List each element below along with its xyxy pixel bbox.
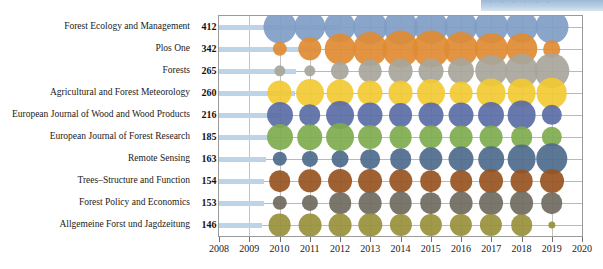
bubble-marker bbox=[359, 192, 382, 215]
bubble-marker bbox=[302, 195, 318, 211]
bubble-marker bbox=[358, 125, 382, 149]
y-axis-label: Forest Policy and Economics bbox=[79, 198, 190, 208]
x-axis-tick bbox=[340, 237, 341, 242]
watermark-banner: · · · · · · bbox=[481, 0, 603, 11]
bubble-marker bbox=[388, 81, 413, 106]
x-axis-tick bbox=[280, 237, 281, 242]
y-axis-label: Trees–Structure and Function bbox=[77, 176, 190, 186]
x-axis-label: 2013 bbox=[360, 244, 380, 254]
x-axis-tick bbox=[552, 237, 553, 242]
x-axis-label: 2008 bbox=[209, 244, 229, 254]
x-axis: 2008200920102011201220132014201520162017… bbox=[218, 237, 583, 269]
y-axis-label: Forest Ecology and Management bbox=[64, 22, 190, 32]
bubble-marker bbox=[420, 170, 442, 192]
x-axis-label: 2019 bbox=[542, 244, 562, 254]
chart-root: · · · · · · Forest Ecology and Managemen… bbox=[0, 0, 603, 269]
bubble-marker bbox=[511, 214, 533, 236]
x-axis-label: 2012 bbox=[330, 244, 350, 254]
x-axis-label: 2010 bbox=[270, 244, 290, 254]
watermark-text: · · · · · · bbox=[489, 0, 553, 7]
bubble-marker bbox=[332, 151, 349, 168]
bubble-marker bbox=[359, 213, 382, 236]
y-axis-label: Remote Sensing bbox=[128, 154, 190, 164]
bubble-marker bbox=[272, 152, 286, 166]
bubble-marker bbox=[507, 101, 536, 130]
bubble-marker bbox=[419, 147, 442, 170]
bubble-marker bbox=[449, 103, 474, 128]
x-axis-label: 2014 bbox=[391, 244, 411, 254]
bubble-marker bbox=[478, 102, 504, 128]
bubble-marker bbox=[450, 170, 472, 192]
bubble-layer bbox=[219, 16, 582, 236]
bubble-marker bbox=[269, 170, 291, 192]
x-axis-tick bbox=[310, 237, 311, 242]
bubble-marker bbox=[326, 123, 354, 151]
x-axis-tick bbox=[370, 237, 371, 242]
x-axis-tick bbox=[219, 237, 220, 242]
x-axis-label: 2011 bbox=[300, 244, 320, 254]
bubble-marker bbox=[263, 16, 296, 44]
bubble-marker bbox=[358, 103, 383, 128]
bubble-marker bbox=[297, 124, 323, 150]
bubble-marker bbox=[420, 214, 442, 236]
bubble-marker bbox=[450, 126, 473, 149]
bubble-marker bbox=[299, 104, 321, 126]
bubble-marker bbox=[510, 191, 534, 215]
bubble-marker bbox=[418, 103, 443, 128]
x-axis-label: 2015 bbox=[421, 244, 441, 254]
x-axis-tick bbox=[431, 237, 432, 242]
bubble-marker bbox=[542, 105, 562, 125]
bubble-marker bbox=[479, 169, 503, 193]
x-axis-label: 2017 bbox=[481, 244, 501, 254]
bubble-marker bbox=[389, 192, 412, 215]
bubble-marker bbox=[479, 146, 505, 172]
x-axis-tick bbox=[401, 237, 402, 242]
bubble-marker bbox=[329, 214, 352, 236]
bubble-marker bbox=[274, 65, 285, 76]
x-axis-tick bbox=[522, 237, 523, 242]
x-axis-tick bbox=[461, 237, 462, 242]
x-axis-tick bbox=[491, 237, 492, 242]
x-axis-label: 2016 bbox=[451, 244, 471, 254]
bubble-marker bbox=[267, 124, 293, 150]
bubble-marker bbox=[331, 62, 349, 80]
y-axis-label: European Journal of Forest Research bbox=[50, 132, 190, 142]
bubble-marker bbox=[328, 169, 352, 193]
bubble-marker bbox=[390, 148, 412, 170]
bubble-marker bbox=[449, 147, 474, 172]
bubble-marker bbox=[420, 192, 442, 214]
bubble-marker bbox=[296, 79, 324, 107]
bubble-marker bbox=[480, 214, 502, 236]
bubble-marker bbox=[541, 192, 563, 214]
y-axis-label: European Journal of Wood and Wood Produc… bbox=[12, 110, 190, 120]
bubble-marker bbox=[389, 169, 412, 192]
y-axis-label: Forests bbox=[163, 66, 190, 76]
y-axis-labels: Forest Ecology and ManagementPlos OneFor… bbox=[0, 15, 190, 237]
bubble-marker bbox=[419, 125, 442, 148]
x-axis-tick bbox=[249, 237, 250, 242]
bubble-marker bbox=[359, 60, 382, 83]
bubble-marker bbox=[360, 149, 380, 169]
bubble-marker bbox=[510, 170, 533, 193]
x-axis-label: 2009 bbox=[239, 244, 259, 254]
bubble-marker bbox=[358, 169, 382, 193]
bubble-marker bbox=[479, 191, 503, 215]
bubble-marker bbox=[548, 221, 555, 228]
bubble-marker bbox=[480, 126, 503, 149]
y-axis-label: Allgemeine Forst und Jagdzeitung bbox=[59, 220, 190, 230]
bubble-marker bbox=[389, 214, 411, 236]
bubble-marker bbox=[389, 126, 412, 149]
x-axis-tick bbox=[582, 237, 583, 242]
bubble-marker bbox=[325, 34, 356, 65]
bubble-marker bbox=[536, 78, 567, 109]
y-axis-label: Plos One bbox=[155, 44, 190, 54]
bubble-marker bbox=[540, 169, 564, 193]
bubble-marker bbox=[302, 151, 318, 167]
bubble-marker bbox=[304, 65, 315, 76]
bubble-marker bbox=[268, 214, 291, 236]
bubble-marker bbox=[450, 214, 472, 236]
plot-area bbox=[218, 15, 583, 237]
bubble-marker bbox=[298, 37, 321, 60]
bubble-marker bbox=[389, 103, 413, 127]
bubble-marker bbox=[272, 42, 286, 56]
